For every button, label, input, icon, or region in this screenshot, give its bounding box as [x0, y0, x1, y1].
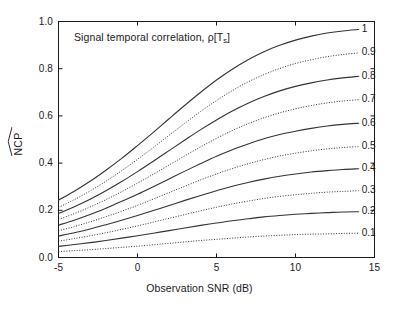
- curve-label-0-3: 0.3: [362, 184, 376, 195]
- curve-0-9: [59, 53, 359, 208]
- y-tick-label: 1.0: [22, 16, 53, 27]
- curve-0-4: [59, 169, 359, 236]
- x-axis-title: Observation SNR (dB): [0, 282, 399, 294]
- chart-figure: 0.00.20.40.60.81.0 -5051015 10.90.80.70.…: [0, 0, 399, 311]
- annotation-prefix: Signal temporal correlation,: [74, 31, 208, 43]
- curve-label-1: 1: [362, 23, 368, 34]
- curve-label-0-1: 0.1: [362, 227, 376, 238]
- y-axis-title-text: NCP: [12, 132, 24, 155]
- curve-0-2: [59, 212, 359, 247]
- curve-1: [59, 30, 359, 201]
- hat-accent-icon: [7, 127, 12, 157]
- curve-label-0-8: 0.8: [362, 70, 376, 81]
- x-tick-label: 15: [355, 262, 395, 273]
- curve-label-0-5: 0.5: [362, 140, 376, 151]
- y-axis-title-wrapper: NCP: [6, 116, 28, 172]
- curve-0-3: [59, 191, 359, 242]
- curve-label-0-4: 0.4: [362, 162, 376, 173]
- curve-0-5: [59, 147, 359, 231]
- y-tick-label: 0.8: [22, 63, 53, 74]
- y-tick-label: 0.0: [22, 252, 53, 263]
- plot-annotation: Signal temporal correlation, ρ[Ts]: [74, 31, 230, 43]
- curve-0-6: [59, 123, 359, 225]
- curve-label-0-9: 0.9: [362, 46, 376, 57]
- curve-label-0-6: 0.6: [362, 117, 376, 128]
- annotation-suffix: ]: [227, 31, 230, 43]
- axis-ticks: [59, 22, 375, 258]
- annotation-subscript: s: [223, 36, 227, 45]
- curve-label-0-7: 0.7: [362, 93, 376, 104]
- x-tick-label: 10: [276, 262, 316, 273]
- y-axis-title: NCP: [11, 132, 24, 155]
- axes-frame: [59, 22, 375, 258]
- y-tick-label: 0.2: [22, 204, 53, 215]
- x-tick-label: 0: [118, 262, 158, 273]
- x-tick-label: 5: [197, 262, 237, 273]
- x-tick-label: -5: [39, 262, 79, 273]
- curve-label-0-2: 0.2: [362, 205, 376, 216]
- annotation-symbol: ρ[T: [208, 31, 224, 43]
- data-curves: [59, 30, 359, 252]
- curve-0-1: [59, 233, 359, 251]
